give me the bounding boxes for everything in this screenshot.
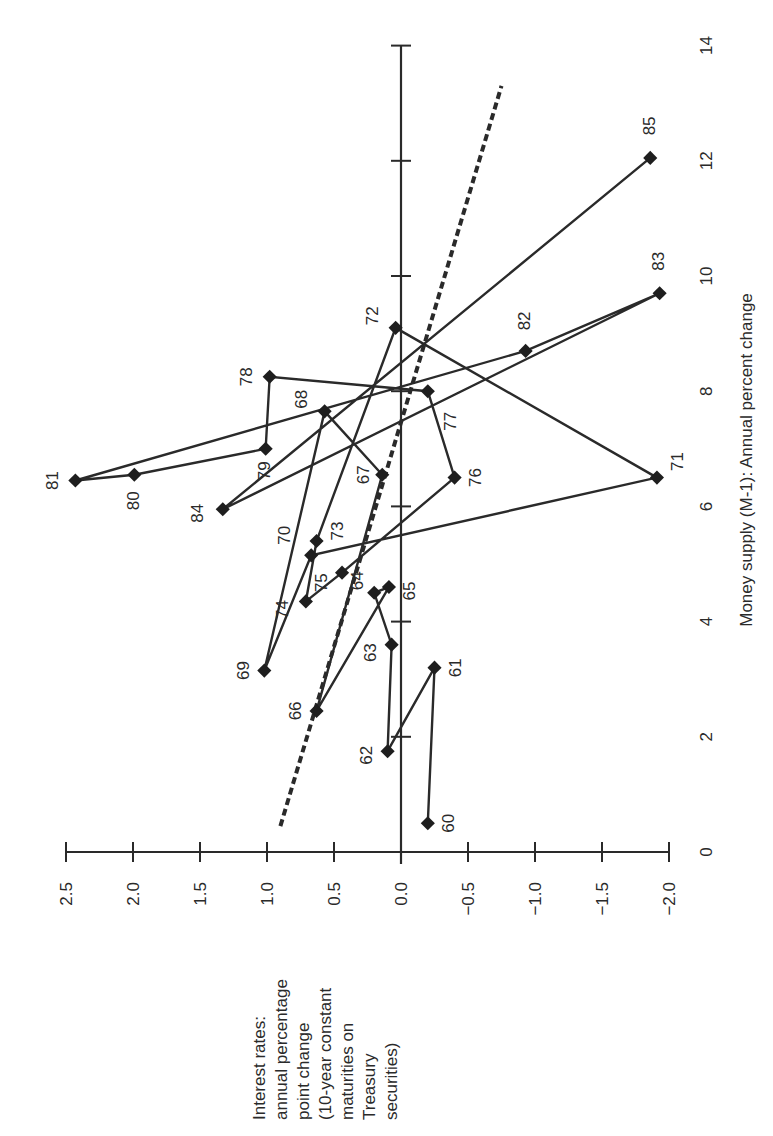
y-axis-title-line: annual percentage xyxy=(272,979,291,1120)
data-point-label: 80 xyxy=(124,491,143,510)
y-axis-title-line: maturities on xyxy=(338,1023,357,1120)
data-point-marker xyxy=(127,468,141,482)
rate-tick-label: −1.0 xyxy=(526,882,545,916)
data-point-label: 85 xyxy=(640,116,659,135)
rate-tick-label: −0.5 xyxy=(459,882,478,916)
data-point-label: 81 xyxy=(43,471,62,490)
data-point-marker xyxy=(381,744,395,758)
y-axis-title-line: point change xyxy=(294,1023,313,1120)
data-point-label: 60 xyxy=(439,814,458,833)
money-tick-label: 6 xyxy=(697,502,716,511)
money-tick-label: 4 xyxy=(697,617,716,626)
money-tick-label: 8 xyxy=(697,386,716,395)
rate-tick-label: 0.5 xyxy=(325,882,344,906)
data-point-marker xyxy=(257,663,271,677)
data-point-marker xyxy=(427,661,441,675)
data-point-marker xyxy=(304,548,318,562)
rate-tick-label: −2.0 xyxy=(660,882,679,916)
data-point-marker xyxy=(263,370,277,384)
data-point-label: 76 xyxy=(466,468,485,487)
data-point-label: 61 xyxy=(446,658,465,677)
y-axis-title-line: Interest rates: xyxy=(250,1016,269,1120)
data-point-label: 67 xyxy=(354,465,373,484)
data-point-label: 79 xyxy=(255,461,274,480)
y-axis-title-line: Treasury xyxy=(360,1053,379,1120)
data-point-label: 62 xyxy=(357,746,376,765)
data-point-marker xyxy=(68,473,82,487)
data-point-marker xyxy=(259,442,273,456)
rate-tick-label: −1.5 xyxy=(593,882,612,916)
money-supply-ticks: 02468101214 xyxy=(391,36,716,857)
y-axis-title: Interest rates:annual percentagepoint ch… xyxy=(250,979,401,1120)
data-point-label: 66 xyxy=(286,701,305,720)
data-point-label: 65 xyxy=(400,582,419,601)
data-point-label: 74 xyxy=(273,600,292,619)
rate-tick-label: 2.0 xyxy=(124,882,143,906)
data-point-label: 82 xyxy=(515,311,534,330)
rate-tick-label: 1.5 xyxy=(191,882,210,906)
data-point-label: 77 xyxy=(441,412,460,431)
rate-tick-label: 1.0 xyxy=(258,882,277,906)
data-point-label: 84 xyxy=(188,504,207,523)
data-point-marker xyxy=(385,638,399,652)
data-point-marker xyxy=(421,384,435,398)
data-point-marker xyxy=(382,580,396,594)
scatter-chart: 2.52.01.51.00.50.0−0.5−1.0−1.5−2.0 02468… xyxy=(0,0,773,1136)
rate-tick-label: 2.5 xyxy=(57,882,76,906)
data-point-label: 71 xyxy=(668,452,687,471)
data-point-marker xyxy=(421,816,435,830)
data-point-label: 78 xyxy=(237,367,256,386)
data-point-label: 63 xyxy=(361,643,380,662)
data-point-marker xyxy=(310,534,324,548)
axis-titles: Money supply (M-1): Annual percent chang… xyxy=(250,293,756,1120)
rate-tick-label: 0.0 xyxy=(392,882,411,906)
money-tick-label: 12 xyxy=(697,151,716,170)
data-point-marker xyxy=(650,471,664,485)
money-tick-label: 14 xyxy=(697,36,716,55)
money-tick-label: 10 xyxy=(697,267,716,286)
data-point-label: 69 xyxy=(234,661,253,680)
data-point-label: 70 xyxy=(275,526,294,545)
data-point-label: 64 xyxy=(348,571,367,590)
data-point-label: 83 xyxy=(649,252,668,271)
data-point-marker xyxy=(653,286,667,300)
data-series: 6061626364656667686970717273747576777879… xyxy=(43,116,688,832)
data-point-label: 75 xyxy=(312,573,331,592)
y-axis-title-line: (10-year constant xyxy=(316,987,335,1120)
money-tick-label: 2 xyxy=(697,732,716,741)
data-point-label: 73 xyxy=(328,521,347,540)
data-point-label: 72 xyxy=(363,306,382,325)
money-tick-label: 0 xyxy=(697,847,716,856)
y-axis-title-line: securities) xyxy=(382,1043,401,1120)
data-point-label: 68 xyxy=(292,390,311,409)
data-point-marker xyxy=(367,586,381,600)
year-path-line xyxy=(75,158,659,823)
x-axis-title: Money supply (M-1): Annual percent chang… xyxy=(737,293,756,627)
